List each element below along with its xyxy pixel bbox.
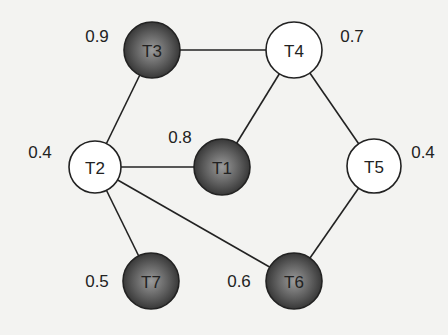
node-label: T6: [284, 273, 304, 292]
weight-label-t4: 0.7: [340, 27, 364, 46]
weight-label-t6: 0.6: [227, 272, 251, 291]
node-label: T2: [85, 159, 105, 178]
node-t1: T1: [194, 139, 250, 195]
graph-svg: T1T2T3T4T5T6T7 0.80.40.90.70.40.60.5: [0, 0, 448, 335]
weight-label-t7: 0.5: [85, 272, 109, 291]
node-label: T7: [141, 273, 161, 292]
node-label: T5: [364, 158, 384, 177]
weight-label-t5: 0.4: [411, 143, 435, 162]
node-t2: T2: [69, 141, 121, 193]
weight-label-t2: 0.4: [28, 143, 52, 162]
node-label: T3: [142, 42, 162, 61]
task-graph-diagram: T1T2T3T4T5T6T7 0.80.40.90.70.40.60.5: [0, 0, 448, 335]
weight-label-t1: 0.8: [168, 128, 192, 147]
node-label: T4: [284, 42, 304, 61]
node-t4: T4: [266, 22, 322, 78]
edge-t2-t6: [95, 167, 294, 281]
weight-label-t3: 0.9: [85, 27, 109, 46]
node-t6: T6: [266, 253, 322, 309]
nodes-layer: T1T2T3T4T5T6T7: [69, 22, 401, 309]
node-t3: T3: [124, 22, 180, 78]
node-t7: T7: [123, 253, 179, 309]
node-t5: T5: [347, 139, 401, 193]
node-label: T1: [212, 159, 232, 178]
